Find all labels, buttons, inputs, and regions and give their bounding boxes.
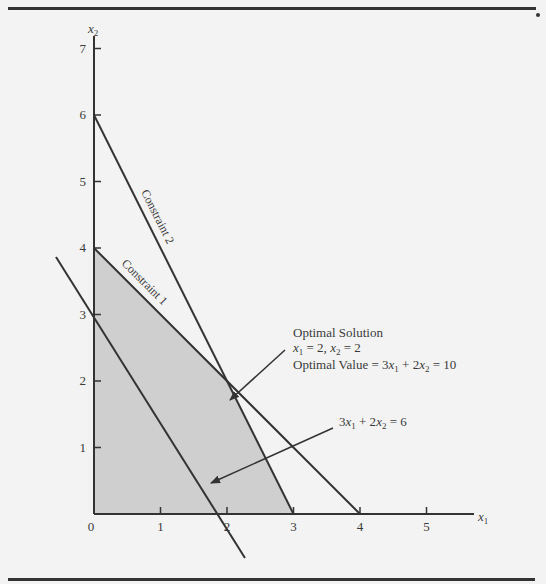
x-tick-label: 4 [357,519,364,534]
top-rule [8,7,536,10]
y-tick-label: 6 [80,107,87,122]
optimal-arrow [230,350,285,400]
optimal-solution-values: x1 = 2, x2 = 2 [292,340,361,357]
optimal-solution-title: Optimal Solution [293,325,383,340]
optimal-value: Optimal Value = 3x1 + 2x2 = 10 [293,357,456,374]
x-tick-label: 3 [290,519,297,534]
y-axis-label: x2 [87,21,98,38]
x-axis-label: x1 [477,509,488,526]
x-tick-label: 5 [423,519,430,534]
corner-dot [536,13,540,17]
x-tick-label: 1 [157,519,164,534]
y-tick-label: 5 [80,174,87,189]
y-tick-label: 4 [80,240,87,255]
y-tick-label: 1 [80,440,87,455]
bottom-rule [8,578,535,581]
y-tick-label: 2 [80,373,87,388]
x-tick-label: 0 [88,519,95,534]
y-tick-label: 7 [80,41,87,56]
feasible-region [94,248,294,514]
objective-line-label: 3x1 + 2x2 = 6 [339,414,407,431]
y-tick-label: 3 [80,307,87,322]
lp-graph: 0 1 2 3 4 5 1 2 3 4 5 6 7 x1 x2 Constrai… [0,0,546,584]
